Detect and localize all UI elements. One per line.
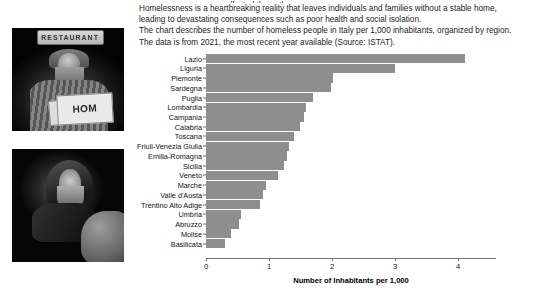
x-tick-mark <box>332 258 333 261</box>
bar <box>206 142 289 151</box>
bar <box>206 103 306 112</box>
intro-line-2: leading to devastating consequences such… <box>139 14 535 25</box>
bar-category-label: Friuli-Venezia Giulia <box>137 142 202 151</box>
bar <box>206 219 239 228</box>
bar <box>206 229 231 238</box>
x-tick: 4 <box>456 258 460 271</box>
bar-row: Sardegna <box>206 83 496 92</box>
homeless-by-region-bar-chart: LazioLiguriaPiemonteSardegnaPugliaLombar… <box>139 54 544 289</box>
bar-category-label: Campania <box>169 113 202 122</box>
homeless-man-with-cardboard-sign-photo: RESTAURANT H HOM <box>12 28 124 131</box>
x-tick-mark <box>458 258 459 261</box>
bar-category-label: Umbria <box>178 210 202 219</box>
homeless-man-resting-photo <box>12 149 124 262</box>
bar-row: Emilia-Romagna <box>206 151 496 160</box>
bar-category-label: Emilia-Romagna <box>148 151 202 160</box>
x-tick-label: 4 <box>456 262 460 271</box>
bar-row: Puglia <box>206 93 496 102</box>
bar <box>206 239 225 248</box>
bar <box>206 190 263 199</box>
x-tick-label: 1 <box>267 262 271 271</box>
bar-row: Abruzzo <box>206 219 496 228</box>
bar-row: Toscana <box>206 132 496 141</box>
bar <box>206 200 260 209</box>
bar-row: Marche <box>206 181 496 190</box>
bar-category-label: Piemonte <box>171 74 202 83</box>
bar-category-label: Molise <box>181 229 202 238</box>
bar-row: Veneto <box>206 171 496 180</box>
x-tick: 0 <box>204 258 208 271</box>
x-tick: 1 <box>267 258 271 271</box>
bar-row: Molise <box>206 229 496 238</box>
content-column: some regions are more affected than othe… <box>139 0 544 289</box>
bar <box>206 171 278 180</box>
bar-row: Sicilia <box>206 161 496 170</box>
bar-category-label: Trentino Alto Adige <box>141 200 202 209</box>
bar-category-label: Abruzzo <box>175 220 202 229</box>
bar-row: Calabria <box>206 122 496 131</box>
bar <box>206 112 304 121</box>
bar-row: Piemonte <box>206 73 496 82</box>
bar-category-label: Marche <box>178 181 202 190</box>
bar <box>206 122 300 131</box>
bar-row: Basilicata <box>206 239 496 248</box>
intro-paragraph: some regions are more affected than othe… <box>139 0 535 48</box>
bar-row: Liguria <box>206 64 496 73</box>
bar <box>206 181 266 190</box>
x-tick: 3 <box>393 258 397 271</box>
intro-line-1: Homelessness is a heartbreaking reality … <box>139 3 535 14</box>
bar-row: Valle d'Aosta <box>206 190 496 199</box>
bar-category-label: Calabria <box>175 122 202 131</box>
intro-clipped-line: some regions are more affected than othe… <box>139 0 535 3</box>
bar <box>206 151 287 160</box>
bar-category-label: Lazio <box>185 54 202 63</box>
bar-category-label: Veneto <box>179 171 202 180</box>
bar-row: Trentino Alto Adige <box>206 200 496 209</box>
bar-category-label: Puglia <box>182 93 202 102</box>
intro-line-4: The data is from 2021, the most recent y… <box>139 37 535 48</box>
bar-category-label: Toscana <box>175 132 202 141</box>
bar <box>206 54 465 63</box>
x-axis-ticks: 01234 <box>206 258 496 274</box>
restaurant-sign: RESTAURANT <box>37 30 104 45</box>
x-tick-mark <box>269 258 270 261</box>
bundle-bag <box>81 211 124 262</box>
x-tick-mark <box>395 258 396 261</box>
plot-area: LazioLiguriaPiemonteSardegnaPugliaLombar… <box>206 54 496 258</box>
bar-category-label: Lombardia <box>168 103 202 112</box>
bar-category-label: Liguria <box>180 64 202 73</box>
bar-row: Lazio <box>206 54 496 63</box>
bar-category-label: Basilicata <box>171 239 202 248</box>
bar <box>206 83 331 92</box>
bar-row: Lombardia <box>206 103 496 112</box>
photo-column: RESTAURANT H HOM <box>12 28 124 262</box>
x-tick-label: 3 <box>393 262 397 271</box>
x-axis-title: Number of Inhabitants per 1,000 <box>206 276 496 285</box>
bar-category-label: Sicilia <box>183 161 202 170</box>
bar <box>206 73 333 82</box>
bar-category-label: Valle d'Aosta <box>160 190 202 199</box>
bar-row: Campania <box>206 112 496 121</box>
bar <box>206 161 284 170</box>
x-tick: 2 <box>330 258 334 271</box>
x-tick-label: 0 <box>204 262 208 271</box>
bar-row: Friuli-Venezia Giulia <box>206 142 496 151</box>
bar-category-label: Sardegna <box>170 83 202 92</box>
bar <box>206 210 241 219</box>
bar <box>206 93 313 102</box>
x-tick-label: 2 <box>330 262 334 271</box>
intro-line-3: The chart describes the number of homele… <box>139 25 535 36</box>
bar <box>206 132 294 141</box>
cardboard-sign: HOM <box>56 92 113 125</box>
x-tick-mark <box>205 258 206 261</box>
bar <box>206 64 395 73</box>
bar-row: Umbria <box>206 210 496 219</box>
